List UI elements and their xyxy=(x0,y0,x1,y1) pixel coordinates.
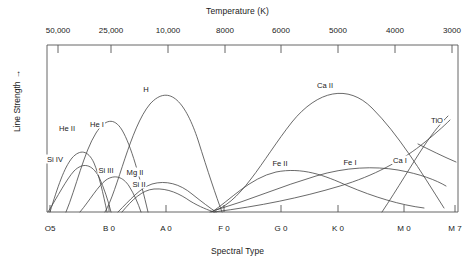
bottom-axis-tick-label: A 0 xyxy=(160,224,172,233)
curve-fe-ii xyxy=(212,170,424,212)
curve-label-mg-ii: Mg II xyxy=(126,168,145,177)
bottom-axis-tick-label: M 0 xyxy=(397,224,410,233)
bottom-axis-tick-label: G 0 xyxy=(275,224,288,233)
curve-ca-i xyxy=(214,120,450,212)
bottom-axis-tick-label: F 0 xyxy=(218,224,230,233)
curve-label-si-iii: Si III xyxy=(97,166,114,175)
curve-tio-branch xyxy=(418,144,456,162)
top-axis-ticks xyxy=(58,45,452,53)
curve-h xyxy=(105,95,222,212)
bottom-axis-tick-label: K 0 xyxy=(332,224,344,233)
curve-label-he-i: He I xyxy=(89,120,105,129)
spectral-line-curves xyxy=(48,93,456,212)
line-strength-chart: Temperature (K) 50,00025,00010,000800060… xyxy=(0,0,475,268)
curve-label-si-iv: Si IV xyxy=(46,155,64,164)
curve-ca-ii xyxy=(210,93,444,212)
curve-label-he-ii: He II xyxy=(58,124,76,133)
bottom-axis-title: Spectral Type xyxy=(0,246,475,256)
plot-frame xyxy=(47,45,458,212)
curve-label-tio: TiO xyxy=(430,116,444,125)
curve-label-ca-i: Ca I xyxy=(392,156,408,165)
curve-label-si-ii: Si II xyxy=(131,180,146,189)
bottom-axis-tick-label: B 0 xyxy=(103,224,115,233)
curve-label-fe-i: Fe I xyxy=(342,158,357,167)
curve-label-h: H xyxy=(142,85,149,94)
curve-label-ca-ii: Ca II xyxy=(316,81,334,90)
bottom-axis-tick-label: M 7 xyxy=(448,224,461,233)
curve-label-fe-ii: Fe II xyxy=(271,159,288,168)
bottom-axis-tick-label: O5 xyxy=(45,224,56,233)
